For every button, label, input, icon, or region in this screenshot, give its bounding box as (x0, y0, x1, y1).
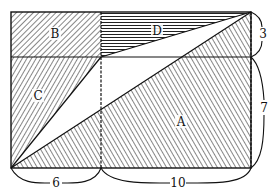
geometry-diagram: B D C A 6 10 3 7 (0, 0, 271, 193)
label-b: B (51, 27, 60, 41)
label-a: A (176, 115, 186, 129)
dim-3: 3 (259, 27, 267, 41)
dim-7: 7 (260, 101, 268, 115)
dim-10: 10 (170, 176, 185, 190)
label-c: C (33, 89, 42, 103)
label-d: D (152, 24, 162, 38)
dim-6: 6 (52, 176, 60, 190)
